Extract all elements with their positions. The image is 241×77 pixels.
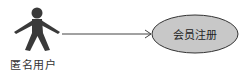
actor-label: 匿名用户 <box>10 56 70 72</box>
use-case-diagram: 匿名用户 会员注册 <box>0 0 241 77</box>
association-arrow <box>62 30 151 38</box>
use-case-label: 会员注册 <box>156 26 234 42</box>
stick-figure-icon <box>14 8 60 52</box>
